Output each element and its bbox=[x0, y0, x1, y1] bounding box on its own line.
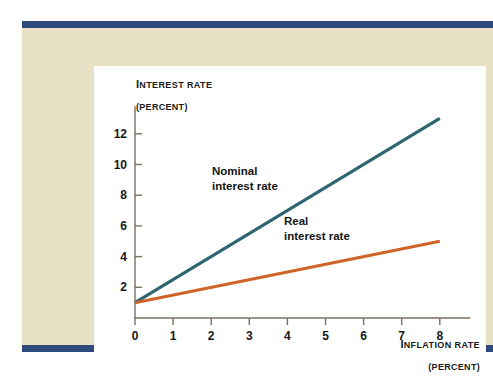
top-rule-bar bbox=[22, 21, 493, 28]
y-tick-label: 12 bbox=[101, 128, 127, 140]
chart-plot-svg bbox=[94, 66, 486, 365]
x-tick-label: 4 bbox=[274, 330, 300, 342]
x-tick-label: 7 bbox=[389, 330, 415, 342]
x-tick-label: 3 bbox=[236, 330, 262, 342]
x-tick-label: 6 bbox=[351, 330, 377, 342]
x-tick-label: 8 bbox=[427, 330, 453, 342]
series-line-real bbox=[135, 241, 440, 302]
chart-series-group bbox=[135, 118, 440, 302]
y-tick-label: 4 bbox=[101, 251, 127, 263]
x-tick-label: 0 bbox=[122, 330, 148, 342]
y-tick-label: 10 bbox=[101, 159, 127, 171]
y-tick-label: 6 bbox=[101, 220, 127, 232]
y-tick-label: 8 bbox=[101, 189, 127, 201]
x-tick-label: 5 bbox=[313, 330, 339, 342]
series-line-nominal bbox=[135, 118, 440, 302]
x-tick-label: 2 bbox=[198, 330, 224, 342]
chart-white-card: INTEREST RATE (PERCENT) INFLATION RATE (… bbox=[94, 66, 486, 365]
chart-surface: INTEREST RATE (PERCENT) INFLATION RATE (… bbox=[94, 66, 486, 365]
beige-background-panel: INTEREST RATE (PERCENT) INFLATION RATE (… bbox=[22, 28, 493, 345]
x-tick-label: 1 bbox=[160, 330, 186, 342]
y-tick-label: 2 bbox=[101, 281, 127, 293]
